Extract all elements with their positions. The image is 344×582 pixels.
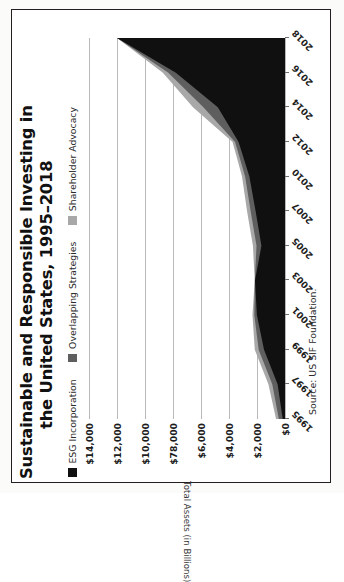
x-axis-tick-label: 2016	[290, 63, 315, 88]
legend-item-esg-incorporation[interactable]: ESG Incorporation	[67, 379, 78, 477]
x-axis-tick-mark	[285, 210, 289, 211]
legend-item-overlapping-strategies[interactable]: Overlapping Strategies	[67, 242, 78, 363]
x-axis-tick-mark	[285, 349, 289, 350]
stacked-area-series	[89, 38, 285, 419]
x-axis-tick-mark	[285, 141, 289, 142]
x-axis-tick-mark	[285, 383, 289, 384]
x-axis-tick-mark	[285, 106, 289, 107]
y-axis-tick-label: $2,000	[252, 423, 263, 458]
y-axis-tick-label: $10,000	[140, 423, 151, 465]
y-axis-tick-label: $12,000	[112, 423, 123, 465]
chart-title: Sustainable and Responsible Investing in…	[17, 9, 57, 483]
x-axis-tick-mark	[285, 72, 289, 73]
x-axis-tick-label: 2018	[290, 28, 315, 53]
x-axis-tick-mark	[285, 279, 289, 280]
gridline	[285, 38, 286, 419]
y-axis-tick-label: $78,000	[168, 423, 179, 465]
x-axis-tick-label: 2010	[290, 166, 315, 191]
x-axis-tick-mark	[285, 37, 289, 38]
plot-area: Total Assets (in Billions) $14,000$12,00…	[89, 38, 285, 419]
x-axis-tick-label: 2014	[290, 97, 315, 122]
legend-swatch-shareholder-advocacy	[68, 216, 77, 225]
y-axis-title: Total Assets (in Billions)	[182, 481, 192, 582]
chart-legend: ESG Incorporation Overlapping Strategies…	[67, 7, 78, 477]
y-axis-tick-label: $4,000	[224, 423, 235, 458]
figure-sheet: Sustainable and Responsible Investing in…	[11, 9, 331, 483]
rotated-figure-canvas: Sustainable and Responsible Investing in…	[11, 9, 331, 483]
x-axis-tick-mark	[285, 245, 289, 246]
legend-swatch-esg-incorporation	[68, 469, 77, 478]
x-axis-tick-mark	[285, 418, 289, 419]
chart-title-line-2: the United States, 1995–2018	[37, 9, 57, 479]
legend-swatch-overlapping-strategies	[68, 354, 77, 363]
legend-label-shareholder-advocacy: Shareholder Advocacy	[67, 107, 78, 211]
y-axis-tick-label: $6,000	[196, 423, 207, 458]
x-axis-tick-mark	[285, 314, 289, 315]
y-axis-tick-label: $14,000	[84, 423, 95, 465]
x-axis-tick-label: 2007	[290, 201, 315, 226]
x-axis-tick-mark	[285, 176, 289, 177]
source-note: Source: US SIF Foundation.	[307, 288, 318, 415]
y-axis-tick-label: $0	[280, 423, 291, 436]
legend-item-shareholder-advocacy[interactable]: Shareholder Advocacy	[67, 107, 78, 225]
legend-label-esg-incorporation: ESG Incorporation	[67, 379, 78, 463]
x-axis-tick-label: 2012	[290, 132, 315, 157]
legend-label-overlapping-strategies: Overlapping Strategies	[67, 242, 78, 349]
x-axis-tick-label: 2005	[290, 236, 315, 261]
chart-title-line-1: Sustainable and Responsible Investing in	[17, 105, 36, 479]
